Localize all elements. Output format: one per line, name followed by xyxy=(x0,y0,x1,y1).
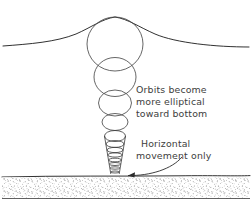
annotation-orbits-line3: toward bottom xyxy=(136,108,207,119)
annotation-orbits-line1: Orbits become xyxy=(136,84,207,95)
orbit-path-8 xyxy=(108,153,122,157)
orbit-path-12 xyxy=(111,171,119,173)
seabed-surface-line xyxy=(2,176,250,177)
seabed xyxy=(2,176,250,199)
orbit-column xyxy=(87,17,143,174)
annotation-bottom-motion: Horizontal movement only xyxy=(136,138,212,161)
wave-crest-curve xyxy=(3,17,249,47)
annotation-bottom-line2: movement only xyxy=(136,150,212,161)
orbit-path-2 xyxy=(94,58,136,97)
wave-orbital-diagram: Orbits become more elliptical toward bot… xyxy=(0,0,252,203)
orbit-path-11 xyxy=(110,167,120,169)
orbit-path-5 xyxy=(105,131,126,142)
orbit-path-10 xyxy=(109,163,120,166)
arrowhead-icon xyxy=(128,172,135,177)
annotation-bottom-line1: Horizontal xyxy=(141,138,190,149)
orbit-path-7 xyxy=(107,147,123,152)
annotation-orbits: Orbits become more elliptical toward bot… xyxy=(136,84,207,119)
surface-wave-profile xyxy=(3,17,249,47)
annotation-orbits-line2: more elliptical xyxy=(136,96,205,107)
seabed-stipple-texture-2 xyxy=(2,178,250,199)
diagram-canvas: Orbits become more elliptical toward bot… xyxy=(0,0,252,203)
orbit-path-1 xyxy=(87,17,143,71)
orbit-path-9 xyxy=(109,158,122,162)
orbit-path-3 xyxy=(99,90,132,116)
